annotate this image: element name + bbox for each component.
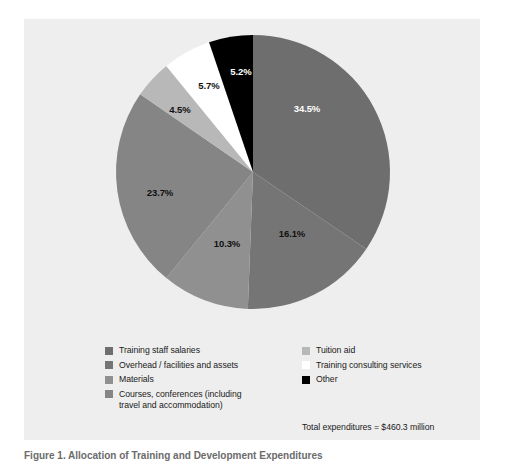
legend-swatch-courses-conferences <box>105 390 113 398</box>
legend-item-label: Materials <box>119 374 154 385</box>
legend-item-label: Tuition aid <box>316 345 355 356</box>
legend-swatch-training-consulting-services <box>302 361 310 369</box>
figure-panel: 34.5%16.1%10.3%23.7%4.5%5.7%5.2% Trainin… <box>24 19 480 440</box>
pie-chart-svg: 34.5%16.1%10.3%23.7%4.5%5.7%5.2% <box>24 19 480 329</box>
legend-swatch-training-staff-salaries <box>105 347 113 355</box>
legend-item-label: Training consulting services <box>316 360 421 371</box>
legend-swatch-materials <box>105 376 113 384</box>
pie-slice-label: 4.5% <box>169 104 191 115</box>
legend-item-label: Courses, conferences (includingtravel an… <box>119 389 242 411</box>
legend-item-label: Training staff salaries <box>119 345 200 356</box>
pie-slice-label: 5.7% <box>198 80 220 91</box>
legend-item-label-line2: travel and accommodation) <box>119 400 242 411</box>
pie-chart: 34.5%16.1%10.3%23.7%4.5%5.7%5.2% <box>24 19 480 329</box>
pie-slice-label: 16.1% <box>279 228 306 239</box>
legend-item[interactable]: Tuition aid <box>302 345 480 356</box>
pie-slice-group <box>116 35 390 309</box>
legend-item[interactable]: Materials <box>105 374 305 385</box>
figure-caption: Figure 1. Allocation of Training and Dev… <box>24 450 323 464</box>
pie-slice-label: 34.5% <box>294 103 321 114</box>
legend-swatch-tuition-aid <box>302 347 310 355</box>
pie-slice-label: 5.2% <box>230 66 252 77</box>
total-expenditures-note: Total expenditures = $460.3 million <box>302 422 434 432</box>
legend-swatch-other <box>302 376 310 384</box>
pie-slice-label: 23.7% <box>147 187 174 198</box>
legend-column-right: Tuition aidTraining consulting servicesO… <box>302 345 480 389</box>
legend-item[interactable]: Courses, conferences (includingtravel an… <box>105 389 305 411</box>
pie-slice-label: 10.3% <box>214 238 241 249</box>
legend-item[interactable]: Training staff salaries <box>105 345 305 356</box>
legend-item-label: Other <box>316 374 337 385</box>
legend-item-label: Overhead / facilities and assets <box>119 360 238 371</box>
legend-column-left: Training staff salariesOverhead / facili… <box>105 345 305 414</box>
legend-item[interactable]: Other <box>302 374 480 385</box>
legend-item[interactable]: Training consulting services <box>302 360 480 371</box>
legend-swatch-overhead-facilities-and-assets <box>105 361 113 369</box>
chart-legend: Training staff salariesOverhead / facili… <box>24 345 480 440</box>
legend-item[interactable]: Overhead / facilities and assets <box>105 360 305 371</box>
